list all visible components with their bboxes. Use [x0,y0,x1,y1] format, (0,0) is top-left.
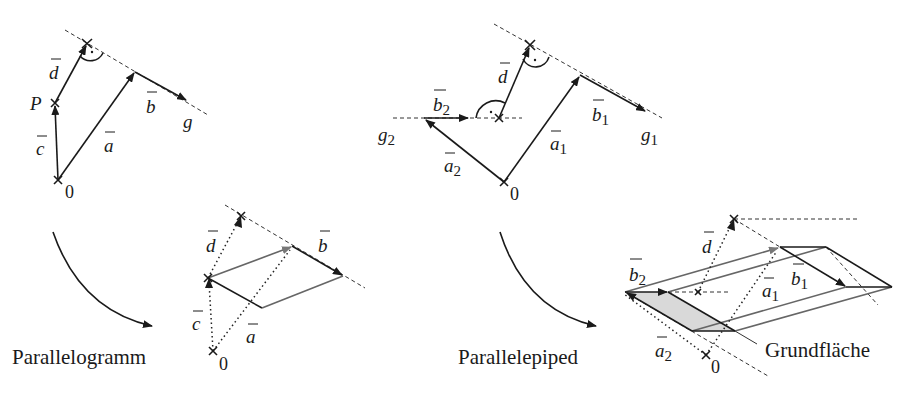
base-leader-line [735,331,757,344]
label-a2: a2 [655,340,672,364]
label-g: g [183,111,193,132]
label-g2: g2 [378,124,395,148]
label-b: b [146,96,156,117]
label-d: d [498,66,508,87]
label-grundflaeche: Grundfläche [765,338,870,362]
right-angle-dot [91,51,93,53]
edge-a-bottom [262,276,343,308]
right-angle-arc [80,53,103,61]
foot-point-top-cross [525,40,535,50]
top-right-diagram: d b2 g2 a2 a1 b1 g1 0 [378,24,662,204]
vector-c [55,106,58,180]
vector-c [209,282,213,351]
caption-parallelepiped: Parallelepiped [458,345,579,369]
label-origin: 0 [510,184,519,204]
origin-cross [500,178,508,186]
bottom-right-diagram: d b2 a1 b1 a2 0 Grundfläche Parallelepip… [458,215,892,377]
vector-b [135,72,186,100]
label-d: d [702,236,712,257]
label-a: a [246,326,256,347]
label-origin: 0 [711,357,720,377]
edge-b-bottom [208,278,262,308]
label-c: c [36,138,45,159]
label-b1: b1 [791,268,808,292]
vector-b [292,246,342,275]
vector-b1 [580,75,645,111]
right-angle-arc-top [523,57,549,67]
label-a: a [104,135,114,156]
vector-a2 [426,120,504,182]
origin-cross [209,347,217,355]
origin-cross [702,351,710,359]
label-a1: a1 [762,280,779,304]
label-d: d [49,62,59,83]
edge-a-top [208,247,291,278]
curved-arrow-right [500,232,596,326]
diagram-canvas: d P c a b g 0 [0,0,921,399]
foot-point-cross [82,39,92,48]
line-g [225,205,365,288]
label-c: c [192,313,201,334]
base-face [625,292,735,331]
line-g1-ext [826,247,878,305]
foot-point-bottom-cross [695,289,701,295]
label-b2: b2 [629,264,646,288]
label-d: d [206,235,216,256]
line-g1-top [734,219,780,247]
caption-parallelogramm: Parallelogramm [12,345,146,369]
label-b2: b2 [433,94,450,118]
label-b: b [318,235,328,256]
label-P: P [29,93,42,114]
right-angle-dot-top [534,59,536,61]
point-P-cross [51,99,59,107]
vector-d [55,46,86,103]
bottom-left-diagram: d b c a 0 Parallelogramm [12,205,365,374]
top-left-diagram: d P c a b g 0 [29,30,208,202]
label-origin: 0 [219,354,228,374]
edge-a1-4 [735,287,892,331]
right-angle-dot-bottom [490,111,492,113]
label-g1: g1 [641,124,658,148]
label-b1: b1 [592,104,609,128]
label-a2: a2 [444,155,461,179]
arrowhead-d [727,219,735,231]
vector-a1 [504,77,579,182]
curved-arrow-left [53,232,152,326]
vector-a [58,73,134,180]
label-origin: 0 [65,182,74,202]
label-a1: a1 [550,133,567,157]
